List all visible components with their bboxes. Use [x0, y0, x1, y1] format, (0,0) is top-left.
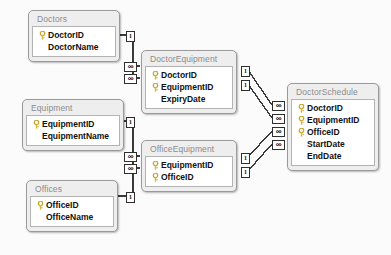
key-icon: [296, 104, 307, 113]
field-list-doctorequipment: DoctorID EquipmentID ExpiryDate: [145, 66, 233, 109]
field-list-offices: OfficeID OfficeName: [30, 196, 114, 227]
cardinality-badge-one: 1: [126, 117, 135, 128]
cardinality-badge-many: ∞: [272, 114, 285, 124]
wire-de-to-ds-1: [248, 70, 272, 105]
field-label: EquipmentName: [42, 131, 109, 141]
er-diagram-canvas: Doctors DoctorID DoctorName Equipment Eq…: [0, 0, 391, 255]
cardinality-badge-many: ∞: [272, 101, 285, 111]
field-row[interactable]: EquipmentName: [31, 130, 115, 142]
field-label: ExpiryDate: [161, 94, 205, 104]
table-title-doctorequipment: DoctorEquipment: [145, 53, 233, 66]
table-title-officeequipment: OfficeEquipment: [145, 143, 233, 156]
field-label: DoctorID: [48, 30, 84, 40]
field-row[interactable]: DoctorID: [150, 69, 228, 81]
entity-table-doctors[interactable]: Doctors DoctorID DoctorName: [28, 10, 120, 62]
key-icon: [150, 83, 161, 92]
cardinality-badge-many: ∞: [272, 127, 285, 137]
field-label: DoctorID: [161, 70, 197, 80]
field-list-doctorschedule: DoctorID EquipmentID OfficeID StartDate: [291, 99, 375, 166]
cardinality-badge-one: 1: [241, 80, 250, 91]
field-label: EquipmentID: [42, 119, 94, 129]
cardinality-badge-one: 1: [241, 153, 250, 164]
cardinality-badge-many: ∞: [124, 164, 137, 174]
field-label: StartDate: [307, 139, 345, 149]
cardinality-badge-one: 1: [241, 167, 250, 178]
cardinality-badge-one: 1: [241, 66, 250, 77]
field-list-doctors: DoctorID DoctorName: [32, 26, 116, 57]
field-row[interactable]: OfficeName: [35, 211, 109, 223]
table-title-offices: Offices: [30, 183, 114, 196]
wire-de-to-ds-2: [248, 84, 272, 118]
field-row[interactable]: EquipmentID: [31, 118, 115, 130]
field-label: DoctorName: [48, 42, 99, 52]
entity-table-doctorschedule[interactable]: DoctorSchedule DoctorID EquipmentID Offi…: [287, 83, 379, 171]
key-icon: [31, 120, 42, 129]
field-row[interactable]: DoctorID: [37, 29, 111, 41]
cardinality-badge-one: 1: [126, 31, 135, 42]
field-row[interactable]: OfficeID: [296, 126, 370, 138]
field-row[interactable]: ExpiryDate: [150, 93, 228, 105]
table-title-doctors: Doctors: [32, 13, 116, 26]
field-row[interactable]: EquipmentID: [150, 159, 228, 171]
field-row[interactable]: OfficeID: [35, 199, 109, 211]
field-label: EquipmentID: [161, 82, 213, 92]
field-label: EquipmentID: [307, 115, 359, 125]
field-row[interactable]: EquipmentID: [150, 81, 228, 93]
key-icon: [35, 201, 46, 210]
field-label: EquipmentID: [161, 160, 213, 170]
field-row[interactable]: DoctorID: [296, 102, 370, 114]
wire-oe-to-ds-1: [248, 131, 272, 157]
field-row[interactable]: EndDate: [296, 150, 370, 162]
field-label: OfficeID: [161, 172, 194, 182]
cardinality-badge-one: 1: [126, 192, 135, 203]
table-title-doctorschedule: DoctorSchedule: [291, 86, 375, 99]
field-row[interactable]: EquipmentID: [296, 114, 370, 126]
field-label: OfficeID: [46, 200, 79, 210]
key-icon: [296, 116, 307, 125]
field-list-equipment: EquipmentID EquipmentName: [26, 115, 120, 146]
field-row[interactable]: OfficeID: [150, 171, 228, 183]
cardinality-badge-many: ∞: [124, 62, 137, 72]
entity-table-equipment[interactable]: Equipment EquipmentID EquipmentName: [22, 99, 124, 151]
field-label: OfficeName: [46, 212, 93, 222]
key-icon: [296, 128, 307, 137]
field-label: EndDate: [307, 151, 341, 161]
key-icon: [37, 31, 48, 40]
key-icon: [150, 173, 161, 182]
field-row[interactable]: StartDate: [296, 138, 370, 150]
cardinality-badge-many: ∞: [124, 152, 137, 162]
key-icon: [150, 71, 161, 80]
key-icon: [150, 161, 161, 170]
field-row[interactable]: DoctorName: [37, 41, 111, 53]
cardinality-badge-many: ∞: [124, 74, 137, 84]
field-list-officeequipment: EquipmentID OfficeID: [145, 156, 233, 187]
entity-table-officeequipment[interactable]: OfficeEquipment EquipmentID OfficeID: [141, 140, 237, 192]
wire-oe-to-ds-2: [248, 144, 272, 171]
entity-table-offices[interactable]: Offices OfficeID OfficeName: [26, 180, 118, 232]
entity-table-doctorequipment[interactable]: DoctorEquipment DoctorID EquipmentID Exp…: [141, 50, 237, 114]
field-label: DoctorID: [307, 103, 343, 113]
table-title-equipment: Equipment: [26, 102, 120, 115]
field-label: OfficeID: [307, 127, 340, 137]
cardinality-badge-many: ∞: [272, 140, 285, 150]
